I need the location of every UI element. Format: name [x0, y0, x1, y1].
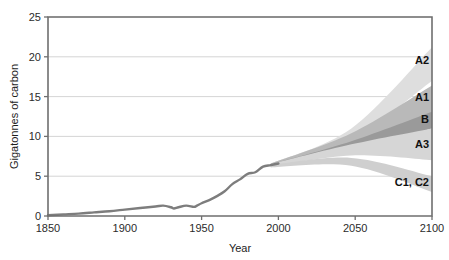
y-tick-label: 10: [29, 130, 41, 142]
historical-emissions-line: [48, 163, 278, 215]
series-label-b: B: [421, 113, 429, 125]
series-label-a1: A1: [415, 91, 429, 103]
y-tick-label: 0: [35, 210, 41, 222]
emissions-scenarios-chart: 0510152025 185019001950200020502100 A2A1…: [0, 0, 449, 260]
x-tick-label: 1900: [113, 222, 137, 234]
x-tick-label: 2050: [343, 222, 367, 234]
y-tick-label: 25: [29, 11, 41, 23]
series-label-a3: A3: [415, 138, 429, 150]
x-axis-title: Year: [229, 242, 252, 254]
y-tick-label: 5: [35, 170, 41, 182]
y-axis-title: Gigatonnes of carbon: [8, 64, 20, 169]
x-axis-ticks: 185019001950200020502100: [36, 216, 444, 234]
x-tick-label: 1850: [36, 222, 60, 234]
y-tick-label: 15: [29, 91, 41, 103]
x-tick-label: 2000: [266, 222, 290, 234]
y-axis-ticks: 0510152025: [29, 11, 48, 222]
series-label-c1c2: C1, C2: [395, 176, 429, 188]
scenario-band-group: [271, 47, 432, 192]
series-label-a2: A2: [415, 54, 429, 66]
chart-canvas: 0510152025 185019001950200020502100 A2A1…: [0, 0, 449, 260]
y-tick-label: 20: [29, 51, 41, 63]
x-tick-label: 2100: [420, 222, 444, 234]
x-tick-label: 1950: [189, 222, 213, 234]
historical-line-path: [48, 163, 278, 215]
